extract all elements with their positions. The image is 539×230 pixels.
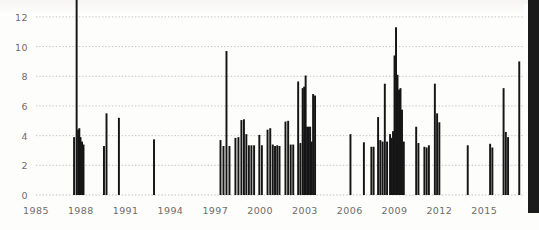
- y-tick-label-4: 4: [8, 130, 28, 141]
- bar: [245, 134, 247, 195]
- bar: [118, 118, 120, 195]
- bar: [220, 140, 222, 195]
- bar: [386, 142, 388, 195]
- bar: [223, 146, 225, 195]
- bar: [269, 128, 271, 195]
- bar: [363, 142, 365, 195]
- page-edge-inner-margin: [524, 4, 528, 209]
- page-edge-artifact: [528, 0, 539, 213]
- bar: [518, 61, 520, 195]
- bar: [297, 81, 299, 195]
- bar: [258, 135, 260, 195]
- x-tick-label-1988: 1988: [68, 205, 94, 216]
- bar: [267, 130, 269, 195]
- bar: [292, 145, 294, 195]
- bar: [272, 145, 274, 195]
- chart-figure: 024681012 198519881991199419972000200320…: [0, 0, 539, 230]
- bar: [379, 140, 381, 195]
- y-tick-label-6: 6: [8, 101, 28, 112]
- bar: [503, 88, 505, 195]
- bar: [253, 145, 255, 195]
- bar: [373, 147, 375, 195]
- bar: [261, 145, 263, 195]
- bar: [274, 146, 276, 195]
- bar: [436, 113, 438, 195]
- bar: [106, 113, 108, 195]
- x-tick-label-2000: 2000: [247, 205, 273, 216]
- histogram-svg: [0, 0, 539, 230]
- bar: [234, 138, 236, 195]
- bar: [423, 147, 425, 195]
- bar: [438, 122, 440, 195]
- x-tick-label-2012: 2012: [426, 205, 452, 216]
- x-tick-label-2003: 2003: [292, 205, 318, 216]
- bar: [434, 84, 436, 195]
- bar: [314, 96, 316, 195]
- bar: [415, 127, 417, 195]
- bar: [384, 84, 386, 195]
- x-tick-label-1991: 1991: [113, 205, 139, 216]
- y-tick-label-12: 12: [8, 11, 28, 22]
- y-tick-label-0: 0: [8, 190, 28, 201]
- x-tick-label-1997: 1997: [202, 205, 228, 216]
- bar: [248, 145, 250, 195]
- bar: [287, 121, 289, 195]
- bar: [240, 120, 242, 195]
- bar: [103, 146, 105, 195]
- bar: [349, 134, 351, 195]
- bar: [279, 146, 281, 195]
- bar: [507, 137, 509, 195]
- x-tick-label-2015: 2015: [471, 205, 497, 216]
- bar: [312, 94, 314, 195]
- bar: [505, 132, 507, 195]
- bar: [377, 117, 379, 195]
- x-tick-label-1985: 1985: [23, 205, 49, 216]
- y-tick-label-2: 2: [8, 160, 28, 171]
- bar: [243, 119, 245, 195]
- bar: [428, 145, 430, 195]
- bar: [401, 110, 403, 195]
- y-tick-label-10: 10: [8, 41, 28, 52]
- bar: [237, 137, 239, 195]
- bar: [153, 139, 155, 195]
- x-tick-label-2006: 2006: [337, 205, 363, 216]
- y-tick-label-8: 8: [8, 71, 28, 82]
- bar: [489, 144, 491, 195]
- bar: [226, 51, 228, 195]
- bar: [228, 146, 230, 195]
- bar: [285, 122, 287, 195]
- bar: [73, 137, 75, 195]
- bar: [403, 142, 405, 195]
- bar: [370, 147, 372, 195]
- bar: [491, 148, 493, 195]
- bar: [382, 142, 384, 195]
- x-tick-label-1994: 1994: [158, 205, 184, 216]
- bar: [426, 148, 428, 195]
- x-tick-label-2009: 2009: [382, 205, 408, 216]
- bar: [276, 145, 278, 195]
- bar: [417, 143, 419, 195]
- bar: [83, 145, 85, 195]
- bar: [290, 145, 292, 195]
- bar: [299, 143, 301, 195]
- bar: [250, 145, 252, 195]
- plot-area: 024681012 198519881991199419972000200320…: [0, 0, 539, 230]
- bar: [467, 145, 469, 195]
